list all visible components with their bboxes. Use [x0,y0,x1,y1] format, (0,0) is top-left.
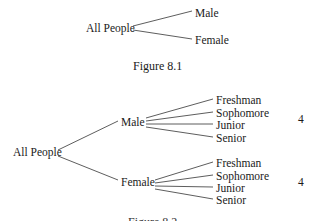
fig2-female-junior: Junior [216,182,245,194]
fig1-node-female: Female [195,34,229,46]
fig2-caption: Figure 8.2 [128,216,177,221]
fig2-female-freshman: Freshman [216,157,261,169]
fig2-female-count: 4 [298,176,304,188]
fig2-node-male: Male [121,116,145,128]
fig2-female-senior: Senior [216,194,246,206]
fig1-root-label: All People [86,22,135,34]
fig2-root-label: All People [13,146,62,158]
fig2-male-senior: Senior [216,132,246,144]
fig2-female-sophomore: Sophomore [216,170,269,182]
fig2-node-female: Female [121,176,155,188]
fig2-male-count: 4 [298,113,304,125]
fig1-caption: Figure 8.1 [133,60,182,72]
fig1-node-male: Male [195,7,219,19]
fig2-male-junior: Junior [216,119,245,131]
fig2-male-sophomore: Sophomore [216,107,269,119]
fig2-male-freshman: Freshman [216,94,261,106]
